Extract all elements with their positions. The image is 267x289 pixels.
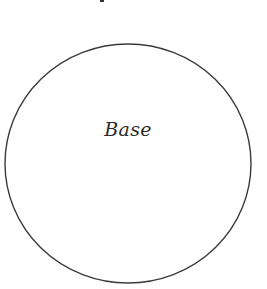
- base-circle-diagram: [0, 0, 267, 289]
- base-label: Base: [78, 118, 178, 140]
- base-circle: [5, 44, 251, 283]
